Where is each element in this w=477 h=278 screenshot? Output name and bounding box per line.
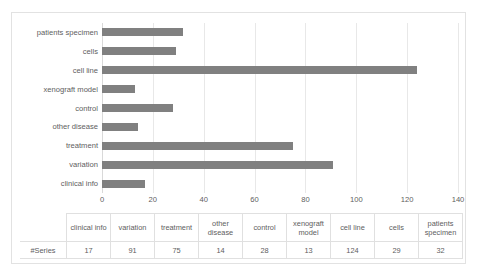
bar-patients-specimen xyxy=(102,28,183,36)
table-col-header: cell line xyxy=(331,214,375,242)
bar-row xyxy=(102,23,458,42)
bar-control xyxy=(102,104,173,112)
table-cell-value: 32 xyxy=(419,242,463,259)
table-cell-value: 91 xyxy=(111,242,155,259)
table-col-header: cells xyxy=(375,214,419,242)
x-tick-label-20: 20 xyxy=(149,194,157,205)
bar-clinical-info xyxy=(102,180,145,188)
bar-row xyxy=(102,136,458,155)
x-axis: 020406080100120140 xyxy=(102,194,458,208)
bar-row xyxy=(102,42,458,61)
bar-other-disease xyxy=(102,123,138,131)
x-tick-label-40: 40 xyxy=(199,194,207,205)
table-cell-value: 14 xyxy=(199,242,243,259)
table-row: #Series 1791751428131242932 xyxy=(20,242,463,259)
bar-cells xyxy=(102,47,176,55)
table-col-header: patients specimen xyxy=(419,214,463,242)
chart-figure: 020406080100120140 patients specimencell… xyxy=(11,12,466,264)
table-cell-value: 124 xyxy=(331,242,375,259)
y-axis-label-xenograft-model: xenograft model xyxy=(12,85,98,94)
x-tick-label-0: 0 xyxy=(100,194,104,205)
bar-row xyxy=(102,155,458,174)
table-col-header: control xyxy=(243,214,287,242)
bar-cell-line xyxy=(102,66,417,74)
plot-area xyxy=(102,23,458,193)
bar-row xyxy=(102,99,458,118)
table-col-header: other disease xyxy=(199,214,243,242)
y-axis-label-cells: cells xyxy=(12,47,98,56)
table-col-header: xenograft model xyxy=(287,214,331,242)
bar-row xyxy=(102,174,458,193)
table-header-row: clinical infovariationtreatmentother dis… xyxy=(20,214,463,242)
table-corner-cell xyxy=(20,214,67,242)
y-axis-label-variation: variation xyxy=(12,160,98,169)
y-axis-label-patients-specimen: patients specimen xyxy=(12,28,98,37)
bar-treatment xyxy=(102,142,293,150)
table-row-label: #Series xyxy=(20,242,67,259)
table-col-header: variation xyxy=(111,214,155,242)
table-col-header: clinical info xyxy=(67,214,111,242)
table-col-header: treatment xyxy=(155,214,199,242)
x-tick-label-140: 140 xyxy=(452,194,465,205)
table-cell-value: 29 xyxy=(375,242,419,259)
bar-row xyxy=(102,61,458,80)
bar-chart: 020406080100120140 patients specimencell… xyxy=(12,13,467,203)
y-axis-label-clinical-info: clinical info xyxy=(12,179,98,188)
gridline-140 xyxy=(458,23,459,193)
y-axis-label-control: control xyxy=(12,104,98,113)
y-axis-label-other-disease: other disease xyxy=(12,122,98,131)
x-tick-label-60: 60 xyxy=(250,194,258,205)
table-cell-value: 28 xyxy=(243,242,287,259)
table-cell-value: 17 xyxy=(67,242,111,259)
y-axis-label-cell-line: cell line xyxy=(12,66,98,75)
bar-xenograft-model xyxy=(102,85,135,93)
y-axis-label-treatment: treatment xyxy=(12,141,98,150)
bar-row xyxy=(102,117,458,136)
bar-variation xyxy=(102,161,333,169)
data-table: clinical infovariationtreatmentother dis… xyxy=(20,213,463,259)
table-cell-value: 13 xyxy=(287,242,331,259)
x-tick-label-120: 120 xyxy=(401,194,414,205)
x-tick-label-100: 100 xyxy=(350,194,363,205)
bar-row xyxy=(102,80,458,99)
table-cell-value: 75 xyxy=(155,242,199,259)
x-tick-label-80: 80 xyxy=(301,194,309,205)
